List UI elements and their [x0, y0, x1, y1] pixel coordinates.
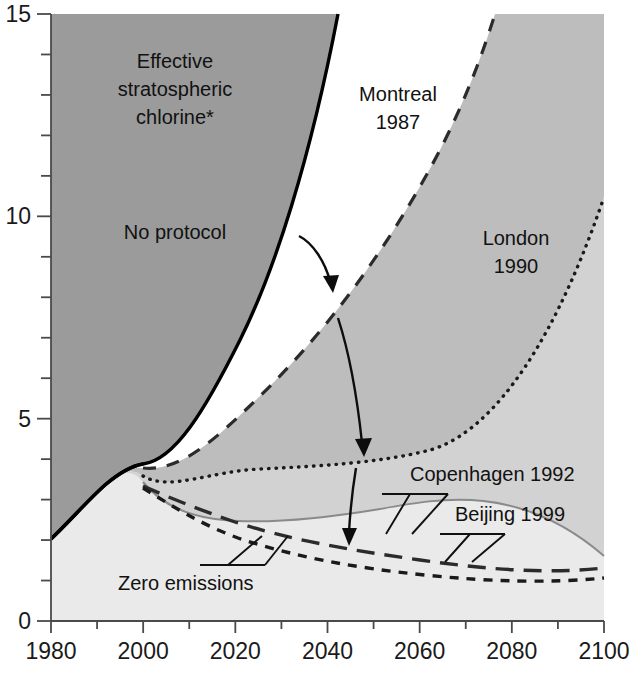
- arrow-no-protocol-to-montreal-head: [323, 275, 339, 293]
- label-effective-stratospheric-chlorine-line3: chlorine*: [136, 106, 214, 128]
- shaded-regions: [51, 14, 604, 621]
- chlorine-projection-chart: 051015 1980200020202040206020802100 Effe…: [0, 0, 633, 673]
- y-axis-tick-labels: 051015: [5, 1, 31, 634]
- label-beijing-1999: Beijing 1999: [455, 503, 565, 525]
- x-axis-tick-labels: 1980200020202040206020802100: [25, 638, 629, 664]
- y-tick-label: 15: [5, 1, 31, 27]
- label-montreal-1987-line2: 1987: [376, 111, 421, 133]
- x-tick-label: 2020: [210, 638, 261, 664]
- chart-root: 051015 1980200020202040206020802100 Effe…: [0, 0, 633, 673]
- x-tick-label: 2040: [302, 638, 353, 664]
- label-zero-emissions: Zero emissions: [118, 572, 254, 594]
- label-london-1990-line1: London: [483, 227, 550, 249]
- x-tick-label: 2000: [118, 638, 169, 664]
- label-copenhagen-1992: Copenhagen 1992: [410, 463, 575, 485]
- x-axis-ticks: [51, 621, 604, 633]
- label-montreal-1987-line1: Montreal: [359, 83, 437, 105]
- x-tick-label: 2060: [394, 638, 445, 664]
- arrow-no-protocol-to-montreal: [299, 236, 330, 281]
- y-tick-label: 5: [18, 406, 31, 432]
- y-tick-label: 10: [5, 203, 31, 229]
- label-effective-stratospheric-chlorine-line1: Effective: [137, 50, 213, 72]
- label-no-protocol: No protocol: [124, 221, 226, 243]
- y-axis-ticks: [37, 14, 51, 621]
- y-tick-label: 0: [18, 608, 31, 634]
- x-tick-label: 2080: [486, 638, 537, 664]
- label-london-1990-line2: 1990: [494, 255, 539, 277]
- label-effective-stratospheric-chlorine-line2: stratospheric: [118, 78, 233, 100]
- x-tick-label: 1980: [25, 638, 76, 664]
- x-tick-label: 2100: [578, 638, 629, 664]
